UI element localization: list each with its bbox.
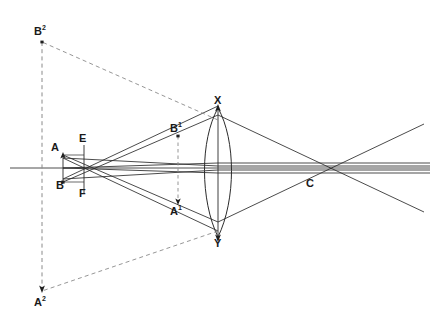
label-a-prime: A1 [170,206,182,217]
final-image-arrow-group [39,41,45,293]
label-a: A [51,142,59,153]
first-image-tick-bprime [176,135,179,138]
ray-bundle-object-to-first-image [63,106,218,231]
optics-ray-diagram: B2 X E B1 A B F A1 C Y A2 [0,0,436,328]
dashed-projection-to-b2 [42,42,218,120]
first-image-arrow-group [175,135,180,205]
label-x: X [214,95,221,106]
ray-diagram-canvas [0,0,436,328]
dashed-projection-to-a2 [42,231,218,291]
label-b: B [56,180,64,191]
label-f: F [79,188,86,199]
ray-x-through-c [218,115,424,212]
label-b-squared: B2 [34,26,46,37]
lens-right-surface [218,108,232,237]
label-e: E [79,133,86,144]
final-image-tick-b2 [40,41,43,44]
label-y: Y [214,238,221,249]
refracted-ray-group [218,115,430,222]
label-c: C [306,178,314,189]
final-image-arrowhead-a2 [39,286,45,293]
virtual-image-construction-group [42,42,218,291]
label-b-prime: B1 [170,123,182,134]
label-a-squared: A2 [34,297,46,308]
axial-ray-converge-lower [63,170,218,179]
